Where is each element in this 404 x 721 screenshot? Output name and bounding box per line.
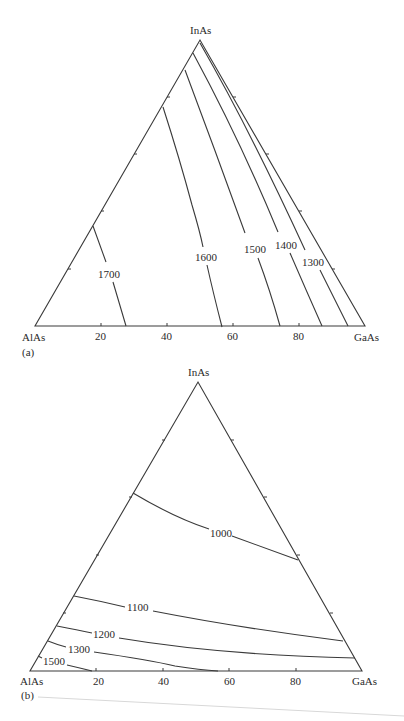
vertex-label-right: GaAs [354, 331, 379, 343]
ternary-figure: 1700 1600 1500 1400 1300 InAs AlAs GaAs … [0, 0, 404, 721]
contour-label-1300: 1300 [68, 643, 91, 655]
triangle-b [30, 382, 362, 671]
tick-label-20: 20 [93, 675, 105, 687]
page-edge-line [38, 697, 404, 716]
vertex-label-right: GaAs [352, 675, 377, 687]
tick-label-40: 40 [161, 330, 173, 342]
contour-label-1400: 1400 [275, 239, 298, 251]
contour-1500 [185, 70, 280, 326]
tick-label-80: 80 [293, 330, 305, 342]
vertex-label-left: AlAs [22, 331, 45, 343]
panel-a: 1700 1600 1500 1400 1300 InAs AlAs GaAs … [22, 24, 379, 359]
triangle-a [35, 40, 365, 326]
contour-1300 [200, 43, 348, 326]
contour-label-1700: 1700 [98, 268, 121, 280]
contour-label-1500: 1500 [43, 655, 66, 667]
contour-label-1600: 1600 [195, 251, 218, 263]
vertex-label-top: InAs [188, 366, 209, 378]
tick-label-20: 20 [95, 330, 107, 342]
vertex-label-top: InAs [190, 24, 211, 36]
tick-label-40: 40 [158, 675, 170, 687]
contour-1600 [163, 107, 222, 327]
tick-label-60: 60 [224, 675, 236, 687]
contour-label-1500: 1500 [244, 243, 267, 255]
contour-1400 [193, 53, 322, 326]
panel-label-a: (a) [22, 346, 35, 359]
tick-label-80: 80 [290, 675, 302, 687]
contour-label-1100: 1100 [127, 601, 149, 613]
tick-label-60: 60 [227, 330, 239, 342]
panel-b: 1000 1100 1200 1300 1500 InAs AlAs GaAs … [20, 366, 404, 716]
vertex-label-left: AlAs [20, 675, 43, 687]
contour-label-1300: 1300 [302, 256, 325, 268]
contour-label-1000: 1000 [210, 527, 233, 539]
panel-label-b: (b) [21, 689, 34, 702]
contour-label-1200: 1200 [93, 628, 116, 640]
